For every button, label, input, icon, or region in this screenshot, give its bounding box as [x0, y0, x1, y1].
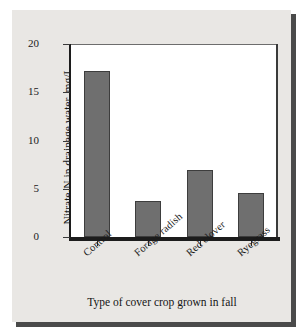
y-axis-spine [69, 44, 71, 241]
y-tick-mark [63, 141, 70, 142]
figure-container: Nitrate-N in drainage water, mg/L 051015… [0, 0, 300, 331]
right-spine [276, 44, 278, 239]
y-tick-mark [63, 92, 70, 93]
bar [84, 71, 110, 237]
scanned-page: Nitrate-N in drainage water, mg/L 051015… [12, 10, 291, 322]
y-tick-label: 15 [5, 86, 39, 97]
y-tick-label: 10 [5, 135, 39, 146]
x-axis-title: Type of cover crop grown in fall [32, 296, 292, 308]
y-tick-label: 5 [5, 183, 39, 194]
page-shadow-right [291, 14, 296, 327]
y-tick-mark [63, 237, 70, 238]
y-tick-label: 0 [5, 231, 39, 242]
page-shadow-bottom [16, 322, 296, 327]
y-tick-mark [63, 189, 70, 190]
y-tick-mark [63, 44, 70, 45]
y-tick-label: 20 [5, 38, 39, 49]
